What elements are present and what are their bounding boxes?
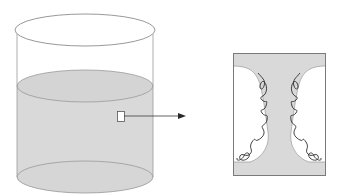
diagram-canvas	[0, 0, 341, 194]
magnified-inset	[233, 53, 326, 176]
liquid-surface	[17, 70, 153, 102]
beaker-bottom	[17, 161, 153, 193]
arrow-head-icon	[178, 113, 186, 119]
diagram	[0, 0, 341, 194]
beaker	[15, 14, 155, 193]
beaker-rim	[15, 14, 155, 46]
sample-marker	[118, 112, 125, 122]
